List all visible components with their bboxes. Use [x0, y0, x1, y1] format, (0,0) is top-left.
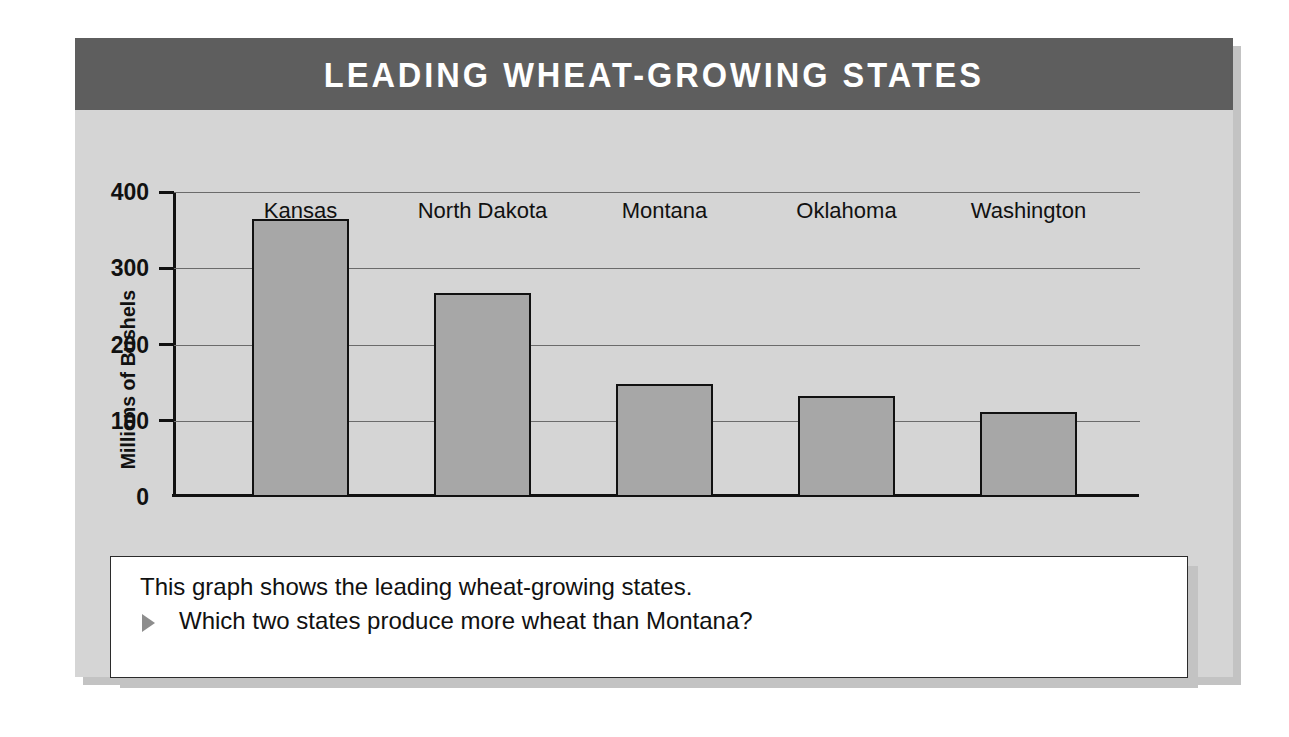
y-tick-label: 200: [79, 334, 149, 357]
y-tick-mark: [159, 267, 174, 270]
caption-question: Which two states produce more wheat than…: [111, 605, 1187, 637]
y-tick-label: 400: [79, 181, 149, 204]
caption-question-text: Which two states produce more wheat than…: [179, 605, 753, 637]
chart-title-bar: LEADING WHEAT-GROWING STATES: [75, 38, 1233, 110]
caption-statement: This graph shows the leading wheat-growi…: [111, 571, 1187, 603]
bar: [980, 412, 1077, 497]
y-axis-title: Millions of Bushels: [117, 280, 140, 480]
bar: [616, 384, 713, 497]
bar: [252, 219, 349, 497]
triangle-right-icon: [142, 614, 155, 632]
y-tick-label: 300: [79, 257, 149, 280]
page-title: LEADING WHEAT-GROWING STATES: [324, 57, 984, 92]
bar: [434, 293, 531, 497]
y-tick-mark: [159, 343, 174, 346]
screenshot-root: LEADING WHEAT-GROWING STATES Millions of…: [0, 0, 1289, 737]
y-tick-mark: [159, 191, 174, 194]
bar: [798, 396, 895, 497]
x-tick-label: Washington: [919, 200, 1139, 222]
y-tick-mark: [159, 419, 174, 422]
y-tick-label: 100: [79, 410, 149, 433]
y-tick-label: 0: [79, 486, 149, 509]
caption-box: This graph shows the leading wheat-growi…: [110, 556, 1188, 678]
plot-area: 0100200300400 KansasNorth DakotaMontanaO…: [173, 192, 1140, 497]
caption-statement-text: This graph shows the leading wheat-growi…: [140, 571, 692, 603]
gridline: [173, 192, 1140, 193]
